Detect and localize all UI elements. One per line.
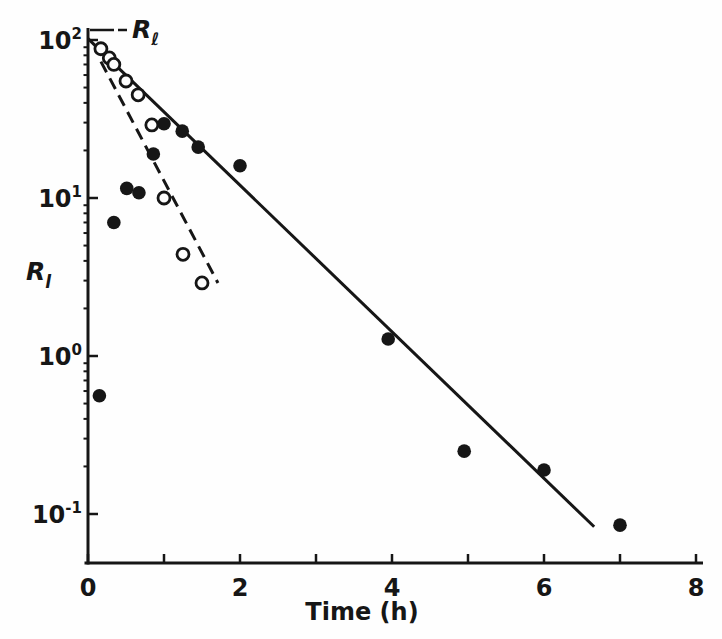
data-point-filled bbox=[457, 444, 471, 458]
data-point-filled bbox=[93, 389, 107, 403]
data-point-open bbox=[108, 58, 120, 70]
y-tick-exponent: -1 bbox=[65, 499, 82, 517]
data-point-filled bbox=[147, 147, 161, 161]
data-point-open bbox=[120, 75, 132, 87]
x-axis-title: Time (h) bbox=[305, 598, 418, 626]
x-tick-label: 2 bbox=[232, 574, 249, 602]
data-point-open bbox=[177, 248, 189, 260]
annotation-base: R bbox=[132, 15, 151, 44]
data-point-filled bbox=[132, 186, 146, 200]
y-tick-label: 102 bbox=[38, 25, 82, 55]
y-tick-exponent: 2 bbox=[72, 25, 82, 43]
x-tick-label: 8 bbox=[688, 574, 705, 602]
y-tick-base: 10 bbox=[38, 27, 71, 55]
data-point-filled bbox=[613, 518, 627, 532]
y-axis-title-base: R bbox=[26, 257, 45, 286]
data-point-filled bbox=[191, 140, 205, 154]
data-point-filled bbox=[107, 216, 121, 230]
data-point-filled bbox=[157, 117, 171, 131]
data-point-filled bbox=[120, 182, 134, 196]
y-tick-exponent: 1 bbox=[72, 183, 82, 201]
y-axis-title-subscript: l bbox=[45, 272, 52, 292]
initial-rate-annotation: Rℓ bbox=[132, 15, 159, 49]
y-tick-base: 10 bbox=[38, 185, 71, 213]
y-axis-title: Rl bbox=[26, 257, 52, 292]
data-point-filled bbox=[175, 124, 189, 138]
scanned-decay-figure: 0246810210110010-1RℓTime (h)Rl bbox=[0, 0, 722, 639]
solid-fit-line bbox=[88, 39, 594, 527]
dashed-fit-line bbox=[101, 62, 218, 283]
data-point-open bbox=[158, 192, 170, 204]
data-point-open bbox=[146, 119, 158, 131]
data-point-filled bbox=[537, 463, 551, 477]
data-point-filled bbox=[381, 332, 395, 346]
y-tick-base: 10 bbox=[38, 343, 71, 371]
y-tick-label: 101 bbox=[38, 183, 82, 213]
semilog-decay-chart: 0246810210110010-1RℓTime (h)Rl bbox=[0, 0, 722, 639]
y-tick-exponent: 0 bbox=[72, 341, 82, 359]
y-tick-label: 10-1 bbox=[32, 499, 82, 529]
annotation-subscript: ℓ bbox=[150, 29, 159, 49]
x-tick-label: 6 bbox=[536, 574, 553, 602]
y-tick-label: 100 bbox=[38, 341, 82, 371]
data-point-open bbox=[196, 277, 208, 289]
data-point-filled bbox=[233, 159, 247, 173]
y-tick-base: 10 bbox=[32, 501, 65, 529]
x-tick-label: 0 bbox=[80, 574, 97, 602]
data-point-open bbox=[132, 89, 144, 101]
